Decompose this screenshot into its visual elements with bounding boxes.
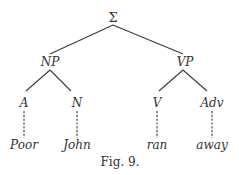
node-sigma: Σ	[108, 10, 117, 25]
leaf-poor: Poor	[9, 138, 39, 152]
figure-caption: Fig. 9.	[101, 155, 140, 169]
leaf-away: away	[196, 138, 228, 152]
edge-sigma-np	[50, 25, 113, 54]
node-a: A	[19, 96, 29, 110]
edge-np-n	[50, 70, 71, 91]
node-np: NP	[40, 55, 61, 69]
edge-vp-adv	[183, 70, 207, 91]
node-v: V	[153, 96, 163, 110]
node-n: N	[71, 96, 83, 110]
leaf-ran: ran	[147, 138, 168, 152]
node-adv: Adv	[199, 96, 223, 110]
edge-vp-v	[159, 70, 183, 91]
leaf-john: John	[60, 138, 91, 152]
node-vp: VP	[177, 55, 195, 69]
edge-np-a	[26, 70, 50, 91]
syntax-tree-diagram: Σ NP VP A N V Adv Poor John ran away Fig…	[0, 0, 239, 175]
edge-sigma-vp	[113, 25, 183, 54]
